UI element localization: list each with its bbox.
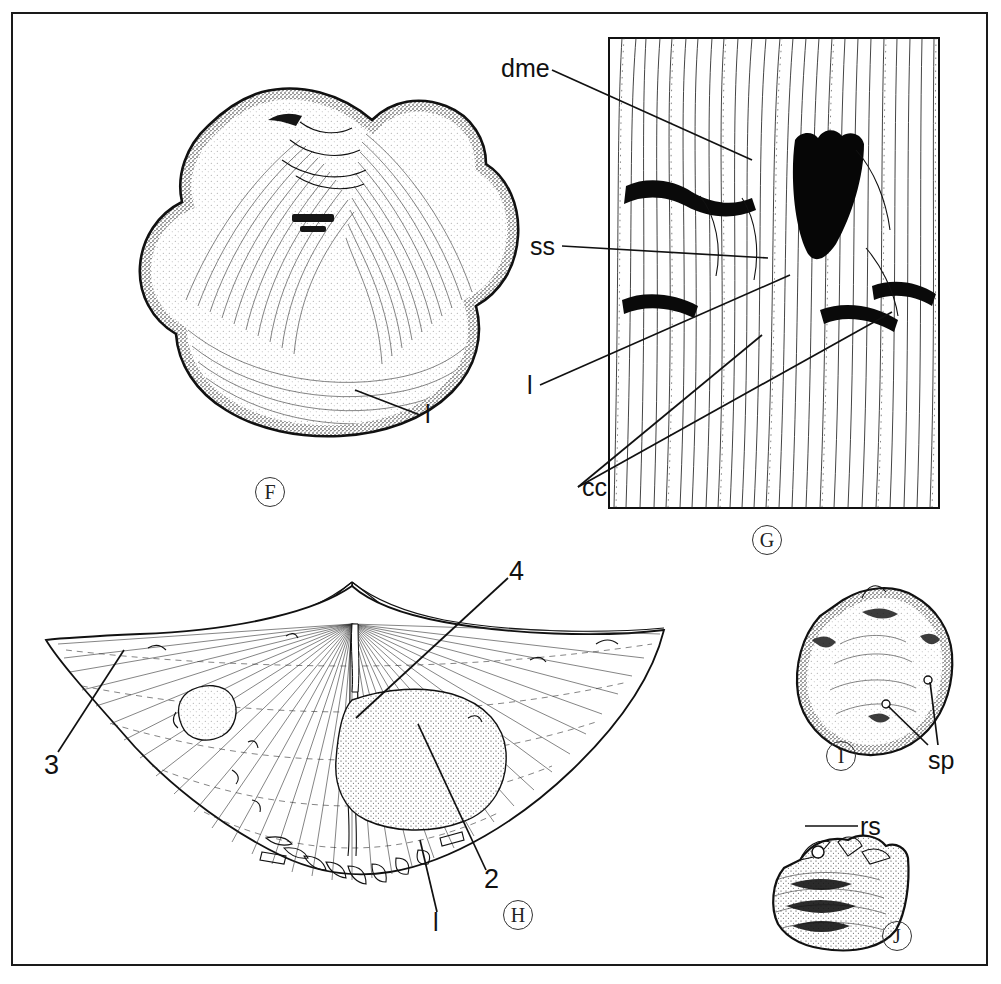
panel-g-label-ss: ss [530, 234, 555, 259]
panel-g-label-dme: dme [501, 56, 550, 81]
panel-tag-j: J [882, 921, 912, 951]
panel-tag-i: I [826, 741, 856, 771]
panel-h-label-l: l [433, 910, 439, 935]
panel-j-label-rs: rs [860, 814, 881, 839]
figure-plate: l F dme ss l cc G 4 3 2 l H sp I rs J [0, 0, 1001, 984]
plate-border [11, 12, 988, 966]
panel-i-label-sp: sp [928, 748, 954, 773]
panel-tag-f: F [255, 477, 285, 507]
panel-h-label-3: 3 [44, 752, 59, 779]
panel-h-label-4: 4 [509, 558, 524, 585]
panel-tag-h: H [503, 900, 533, 930]
panel-g-label-l: l [527, 373, 533, 398]
panel-f-label-l: l [425, 402, 431, 427]
panel-tag-g: G [752, 525, 782, 555]
panel-h-label-2: 2 [484, 866, 499, 893]
panel-g-label-cc: cc [582, 475, 607, 500]
